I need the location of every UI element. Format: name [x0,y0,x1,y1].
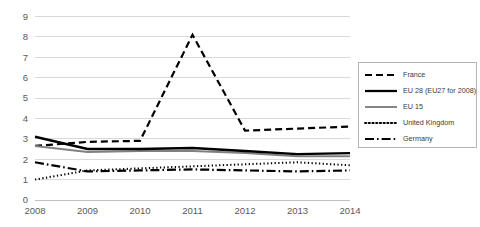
x-axis-tick-label: 2011 [182,205,202,216]
x-axis-tick-label: 2010 [129,205,150,216]
y-axis-tick-label: 1 [23,174,28,185]
series-line-france [35,35,350,146]
legend-swatch-line-icon [364,85,398,97]
legend-swatch-line-icon [364,117,398,129]
legend-label: United Kingdom [403,119,454,126]
y-axis-tick-label: 3 [23,133,28,144]
y-axis-tick-label: 0 [23,194,28,205]
line-chart: 012345678910 200820092010201120122013201… [0,0,480,227]
legend-item-germany[interactable]: Germany [359,131,476,147]
y-axis-tick-label: 2 [23,154,28,165]
y-axis-tick-label: 6 [23,72,28,83]
x-axis-tick-label: 2013 [287,205,308,216]
legend-swatch-line-icon [364,69,398,81]
legend-label: France [403,71,425,78]
legend-label: EU 28 (EU27 for 2008) [403,87,476,94]
legend-item-eu28[interactable]: EU 28 (EU27 for 2008) [359,83,476,99]
legend-item-eu15[interactable]: EU 15 [359,99,476,115]
legend-swatch-line-icon [364,101,398,113]
x-axis-tick-label: 2014 [339,205,360,216]
y-axis-tick-label: 4 [23,113,28,124]
y-axis-tick-labels: 012345678910 [17,0,28,205]
y-axis-tick-label: 9 [23,11,28,22]
series-line-germany [35,162,350,171]
legend-item-united-kingdom[interactable]: United Kingdom [359,115,476,131]
legend-label: Germany [403,135,433,142]
x-axis-tick-labels: 2008200920102011201220132014 [24,205,360,216]
x-axis-tick-label: 2008 [24,205,45,216]
y-axis-tick-label: 10 [17,0,28,1]
data-series-group [35,35,350,180]
x-axis-tick-label: 2009 [77,205,98,216]
legend-label: EU 15 [403,103,423,110]
y-axis-tick-label: 7 [23,52,28,63]
chart-legend: France EU 28 (EU27 for 2008) EU 15 Unite… [358,62,477,148]
legend-item-france[interactable]: France [359,67,476,83]
y-axis-tick-label: 5 [23,92,28,103]
y-axis-tick-label: 8 [23,31,28,42]
x-axis-tick-label: 2012 [234,205,255,216]
legend-swatch-line-icon [364,133,398,145]
